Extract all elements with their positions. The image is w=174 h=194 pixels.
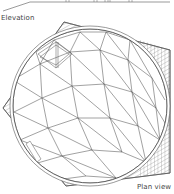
dome-plan-drawing <box>0 0 174 194</box>
elevation-view <box>3 0 170 11</box>
plan-view-label: Plan view <box>137 183 171 191</box>
elevation-label: Elevation <box>1 14 34 22</box>
